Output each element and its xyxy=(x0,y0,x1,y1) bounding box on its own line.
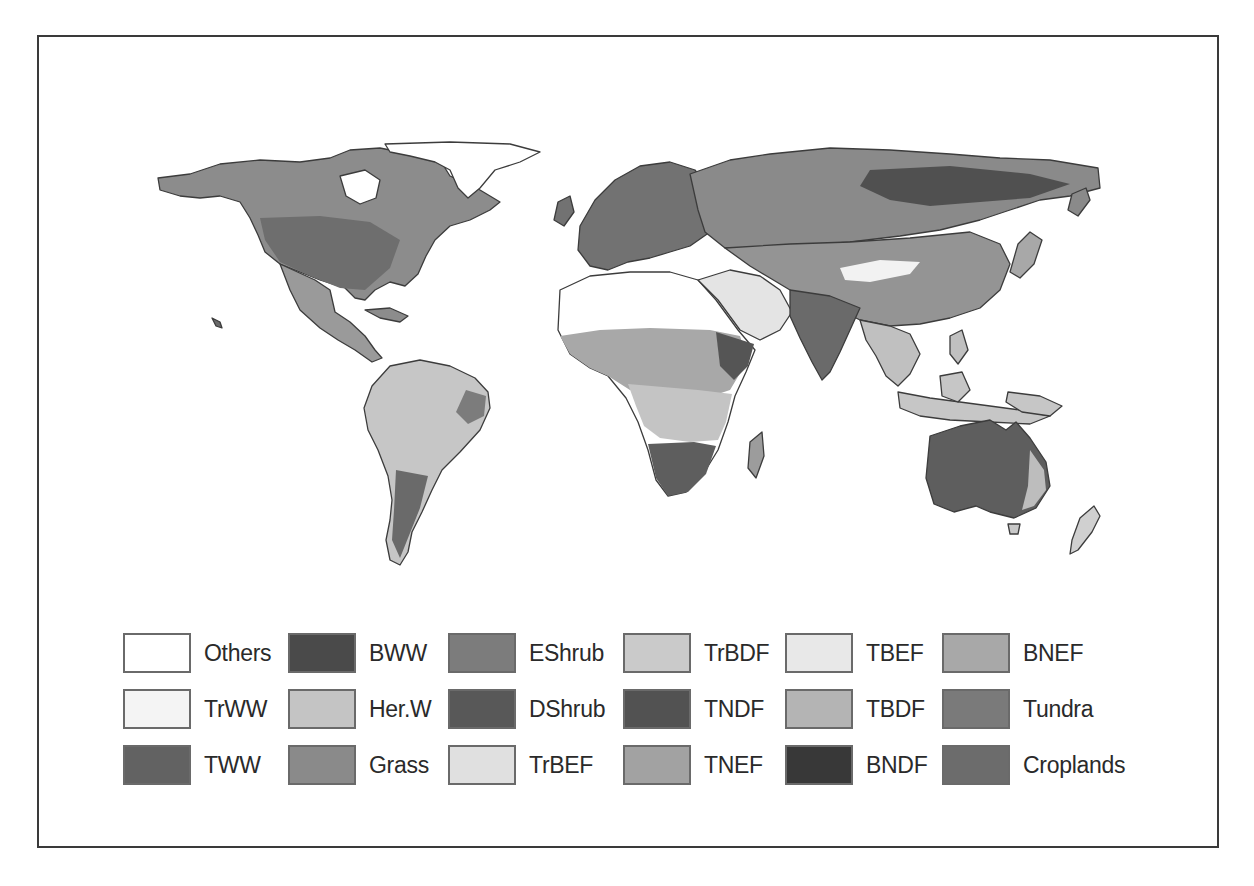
map-canvas xyxy=(150,140,1110,580)
legend-label: TNEF xyxy=(704,752,763,779)
legend-swatch xyxy=(623,633,691,673)
legend-swatch xyxy=(288,689,356,729)
legend-swatch xyxy=(942,745,1010,785)
legend-item-dshrub: DShrub xyxy=(448,688,605,730)
hawaii xyxy=(212,318,222,328)
legend-item-bnef: BNEF xyxy=(942,632,1083,674)
legend-swatch xyxy=(942,633,1010,673)
caribbean-islands xyxy=(365,308,408,322)
legend-swatch xyxy=(288,745,356,785)
legend-item-tbef: TBEF xyxy=(785,632,924,674)
legend-label: TBDF xyxy=(866,696,925,723)
legend-swatch xyxy=(942,689,1010,729)
legend-label: Her.W xyxy=(369,696,431,723)
legend-swatch xyxy=(623,689,691,729)
legend-swatch xyxy=(785,745,853,785)
legend-item-eshrub: EShrub xyxy=(448,632,604,674)
legend-label: Grass xyxy=(369,752,429,779)
legend-label: Others xyxy=(204,640,271,667)
legend-label: Tundra xyxy=(1023,696,1093,723)
legend-swatch xyxy=(785,689,853,729)
south-america-shape xyxy=(364,360,490,565)
world-vegetation-map xyxy=(150,140,1110,580)
legend-swatch xyxy=(123,745,191,785)
legend-swatch xyxy=(623,745,691,785)
legend-item-bww: BWW xyxy=(288,632,427,674)
tasmania xyxy=(1008,524,1020,534)
southern-africa-region xyxy=(648,442,716,496)
legend-label: Croplands xyxy=(1023,752,1125,779)
legend-item-tndf: TNDF xyxy=(623,688,764,730)
legend-item-croplands: Croplands xyxy=(942,744,1125,786)
legend-label: TWW xyxy=(204,752,261,779)
legend-label: BWW xyxy=(369,640,427,667)
legend-swatch xyxy=(448,745,516,785)
legend-swatch xyxy=(448,689,516,729)
legend-swatch xyxy=(288,633,356,673)
british-isles xyxy=(554,196,574,226)
legend-item-grass: Grass xyxy=(288,744,429,786)
legend-label: TrBDF xyxy=(704,640,769,667)
japan xyxy=(1010,232,1042,278)
legend-item-bndf: BNDF xyxy=(785,744,927,786)
legend-label: EShrub xyxy=(529,640,604,667)
madagascar xyxy=(748,432,764,478)
legend-item-herw: Her.W xyxy=(288,688,431,730)
legend-item-trww: TrWW xyxy=(123,688,267,730)
legend: Others TrWW TWW BWW Her.W Grass EShrub D… xyxy=(123,632,1163,802)
legend-label: TBEF xyxy=(866,640,924,667)
legend-swatch xyxy=(123,689,191,729)
legend-label: TrWW xyxy=(204,696,267,723)
legend-label: BNDF xyxy=(866,752,927,779)
india-shape xyxy=(790,290,860,380)
legend-item-tww: TWW xyxy=(123,744,261,786)
legend-swatch xyxy=(123,633,191,673)
legend-swatch xyxy=(448,633,516,673)
borneo xyxy=(940,372,970,402)
legend-label: TrBEF xyxy=(529,752,593,779)
legend-item-tundra: Tundra xyxy=(942,688,1093,730)
southeast-asia-shape xyxy=(860,320,920,386)
legend-item-others: Others xyxy=(123,632,271,674)
legend-item-trbdf: TrBDF xyxy=(623,632,769,674)
philippines xyxy=(950,330,968,364)
new-zealand xyxy=(1070,506,1100,554)
legend-item-trbef: TrBEF xyxy=(448,744,593,786)
legend-label: DShrub xyxy=(529,696,605,723)
legend-item-tbdf: TBDF xyxy=(785,688,925,730)
legend-label: TNDF xyxy=(704,696,764,723)
legend-label: BNEF xyxy=(1023,640,1083,667)
legend-item-tnef: TNEF xyxy=(623,744,763,786)
legend-swatch xyxy=(785,633,853,673)
